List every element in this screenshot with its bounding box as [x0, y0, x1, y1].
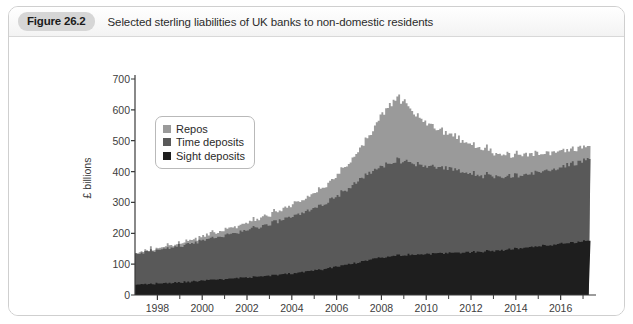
legend-swatch-icon	[163, 152, 171, 160]
x-tick-label: 2002	[235, 302, 258, 314]
x-tick-label: 2008	[370, 302, 393, 314]
x-axis-ticks: 1998200020022004200620082010201220142016	[9, 38, 624, 316]
legend-item-label: Time deposits	[176, 136, 244, 148]
x-tick-label: 1998	[146, 302, 169, 314]
legend-item: Sight deposits	[163, 150, 245, 162]
x-tick-label: 2000	[191, 302, 214, 314]
figure-title: Selected sterling liabilities of UK bank…	[108, 16, 434, 28]
legend-item: Time deposits	[163, 136, 245, 148]
figure-number-badge: Figure 26.2	[18, 12, 95, 31]
chart-plot-inner: £ billions 0100200300400500600700 199820…	[9, 38, 624, 316]
legend-item: Repos	[163, 123, 245, 135]
page-root: Figure 26.2 Selected sterling liabilitie…	[0, 0, 633, 324]
chart-area: £ billions 0100200300400500600700 199820…	[9, 38, 624, 316]
x-tick-label: 2012	[459, 302, 482, 314]
legend-swatch-icon	[163, 125, 171, 133]
x-tick-label: 2014	[504, 302, 527, 314]
chart-legend: ReposTime depositsSight deposits	[155, 116, 255, 169]
x-tick-label: 2016	[549, 302, 572, 314]
legend-item-label: Sight deposits	[176, 150, 245, 162]
x-tick-label: 2004	[280, 302, 303, 314]
figure-card: Figure 26.2 Selected sterling liabilitie…	[8, 6, 625, 316]
figure-header: Figure 26.2 Selected sterling liabilitie…	[9, 7, 624, 37]
legend-item-label: Repos	[176, 123, 208, 135]
x-tick-label: 2010	[415, 302, 438, 314]
x-tick-label: 2006	[325, 302, 348, 314]
legend-swatch-icon	[163, 138, 171, 146]
